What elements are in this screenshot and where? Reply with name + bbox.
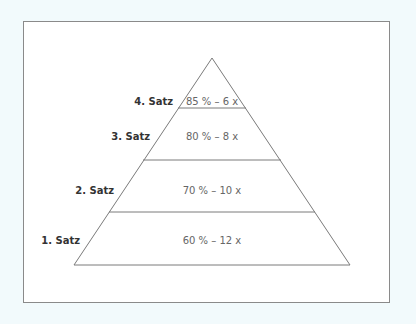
level-value-4: 85 % – 6 x: [162, 96, 262, 107]
level-label-3: 3. Satz: [111, 131, 150, 142]
level-value-2: 70 % – 10 x: [162, 185, 262, 196]
level-value-3: 80 % – 8 x: [162, 131, 262, 142]
level-label-2: 2. Satz: [75, 185, 114, 196]
level-label-1: 1. Satz: [41, 235, 80, 246]
pyramid-shape: [0, 0, 416, 324]
level-value-1: 60 % – 12 x: [162, 235, 262, 246]
